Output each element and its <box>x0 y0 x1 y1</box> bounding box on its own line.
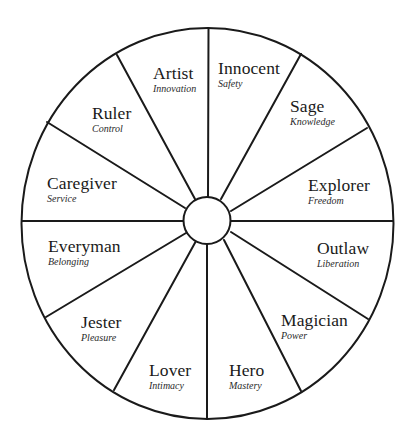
segment-lover: Lover Intimacy <box>149 362 191 391</box>
artist-trait: Innovation <box>153 84 196 94</box>
innocent-label: Innocent <box>218 60 280 78</box>
hero-label: Hero <box>229 362 264 380</box>
segment-hero: Hero Mastery <box>229 362 264 391</box>
segment-innocent: Innocent Safety <box>218 60 280 89</box>
segment-jester: Jester Pleasure <box>81 314 121 343</box>
inner-hub-circle <box>184 197 231 244</box>
segment-explorer: Explorer Freedom <box>308 177 370 206</box>
explorer-label: Explorer <box>308 177 370 195</box>
jester-trait: Pleasure <box>81 333 121 343</box>
everyman-trait: Belonging <box>48 257 121 267</box>
artist-label: Artist <box>153 65 196 83</box>
innocent-trait: Safety <box>218 79 280 89</box>
segment-sage: Sage Knowledge <box>290 98 335 127</box>
lover-trait: Intimacy <box>149 381 191 391</box>
segment-artist: Artist Innovation <box>153 65 196 94</box>
ruler-trait: Control <box>92 124 131 134</box>
archetype-wheel <box>0 0 411 442</box>
magician-label: Magician <box>281 312 348 330</box>
magician-trait: Power <box>281 331 348 341</box>
segment-ruler: Ruler Control <box>92 105 131 134</box>
jester-label: Jester <box>81 314 121 332</box>
segment-magician: Magician Power <box>281 312 348 341</box>
segment-everyman: Everyman Belonging <box>48 238 121 267</box>
lover-label: Lover <box>149 362 191 380</box>
sage-label: Sage <box>290 98 335 116</box>
segment-outlaw: Outlaw Liberation <box>317 240 369 269</box>
ruler-label: Ruler <box>92 105 131 123</box>
outlaw-label: Outlaw <box>317 240 369 258</box>
sage-trait: Knowledge <box>290 117 335 127</box>
caregiver-trait: Service <box>47 194 117 204</box>
explorer-trait: Freedom <box>308 196 370 206</box>
everyman-label: Everyman <box>48 238 121 256</box>
spoke-top <box>208 28 209 197</box>
outlaw-trait: Liberation <box>317 259 369 269</box>
hero-trait: Mastery <box>229 381 264 391</box>
caregiver-label: Caregiver <box>47 175 117 193</box>
segment-caregiver: Caregiver Service <box>47 175 117 204</box>
